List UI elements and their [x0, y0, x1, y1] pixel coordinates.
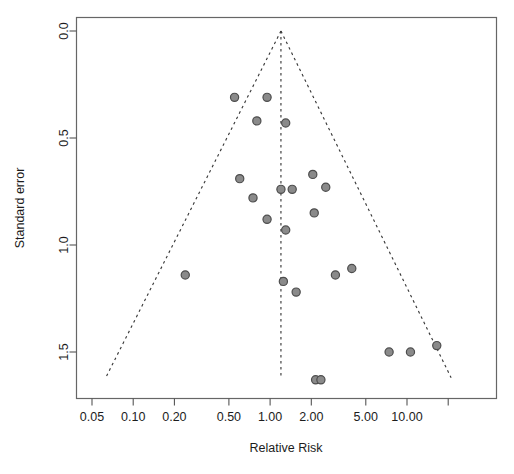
y-tick-label: 1.0 — [57, 236, 71, 253]
data-point — [249, 194, 257, 202]
data-point — [331, 271, 339, 279]
y-tick-label: 0.0 — [57, 22, 71, 39]
x-tick-label: 1.00 — [258, 410, 282, 424]
data-point — [282, 119, 290, 127]
x-tick-label: 2.00 — [299, 410, 323, 424]
x-tick-label: 0.10 — [121, 410, 145, 424]
data-point — [253, 117, 261, 125]
x-tick-label: 5.00 — [354, 410, 378, 424]
data-point — [322, 183, 330, 191]
funnel-plot-canvas: 0.050.100.200.501.002.005.0010.00 0.00.5… — [0, 0, 514, 474]
data-point — [317, 376, 325, 384]
data-point — [230, 93, 238, 101]
y-axis-title: Standard error — [13, 168, 27, 249]
data-point — [309, 170, 317, 178]
data-point — [348, 264, 356, 272]
data-point — [292, 288, 300, 296]
data-point — [236, 175, 244, 183]
data-point — [181, 271, 189, 279]
data-point — [406, 348, 414, 356]
data-point — [385, 348, 393, 356]
data-point — [277, 185, 285, 193]
y-tick-label: 0.5 — [57, 129, 71, 146]
data-point — [288, 185, 296, 193]
x-tick-label: 0.50 — [217, 410, 241, 424]
funnel-plot-figure: 0.050.100.200.501.002.005.0010.00 0.00.5… — [0, 0, 514, 474]
data-point — [433, 341, 441, 349]
data-point — [310, 209, 318, 217]
data-point — [263, 215, 271, 223]
x-tick-label: 0.20 — [162, 410, 186, 424]
y-tick-label: 1.5 — [57, 343, 71, 360]
x-axis-title: Relative Risk — [250, 441, 324, 455]
x-tick-label: 10.00 — [391, 410, 422, 424]
data-point — [279, 277, 287, 285]
x-tick-label: 0.05 — [80, 410, 104, 424]
data-point — [263, 93, 271, 101]
data-point — [282, 226, 290, 234]
